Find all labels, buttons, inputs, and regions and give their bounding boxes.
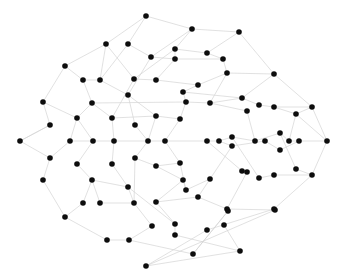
graph-edge: [128, 16, 146, 44]
graph-node: [143, 13, 149, 19]
graph-node: [97, 200, 103, 206]
graph-edge: [156, 166, 183, 180]
graph-node: [324, 138, 330, 144]
graph-node: [277, 130, 283, 136]
graph-edge: [186, 102, 210, 103]
graph-edge: [100, 80, 128, 95]
graph-edge: [43, 180, 65, 217]
graph-node: [204, 138, 210, 144]
graph-edge: [100, 44, 106, 80]
graph-node: [236, 29, 242, 35]
graph-edge: [274, 74, 312, 107]
graph-node: [89, 177, 95, 183]
graph-edge: [77, 141, 93, 164]
graph-node: [256, 102, 262, 108]
graph-node: [172, 46, 178, 52]
graph-node: [40, 177, 46, 183]
graph-edge: [50, 141, 70, 158]
graph-edge: [156, 116, 180, 119]
graph-node: [62, 63, 68, 69]
graph-node: [40, 99, 46, 105]
graph-edge: [65, 217, 107, 240]
graph-edge: [106, 44, 134, 79]
graph-node: [183, 187, 189, 193]
graph-edge: [146, 210, 275, 266]
graph-edge: [129, 226, 152, 240]
graph-edge: [43, 66, 65, 102]
graph-node: [125, 41, 131, 47]
graph-node: [67, 138, 73, 144]
graph-edge: [227, 209, 275, 210]
graph-edge: [274, 175, 312, 209]
graph-edge: [227, 73, 274, 74]
graph-node: [90, 138, 96, 144]
graph-node: [74, 115, 80, 121]
graph-node: [125, 92, 131, 98]
graph-node: [252, 138, 258, 144]
graph-node: [145, 138, 151, 144]
graph-edge: [134, 203, 152, 226]
graph-node: [131, 76, 137, 82]
graph-edge: [43, 102, 50, 125]
graph-node: [220, 56, 226, 62]
graph-node: [180, 177, 186, 183]
graph-edge: [210, 73, 227, 103]
graph-node: [216, 138, 222, 144]
graph-node: [309, 104, 315, 110]
graph-edge: [92, 180, 100, 203]
graph-edge: [175, 49, 207, 53]
graph-edge: [247, 111, 255, 141]
graph-node: [309, 172, 315, 178]
graph-node: [183, 99, 189, 105]
graph-node: [296, 138, 302, 144]
graph-edge: [156, 163, 180, 166]
graph-edge: [165, 119, 180, 141]
graph-node: [286, 138, 292, 144]
network-graph: [0, 0, 344, 278]
graph-edge: [65, 203, 83, 217]
graph-edge: [146, 16, 192, 29]
graph-node: [149, 223, 155, 229]
graph-node: [97, 77, 103, 83]
graph-node: [195, 194, 201, 200]
graph-edge: [296, 114, 327, 141]
graph-edge: [135, 125, 148, 141]
graph-node: [244, 108, 250, 114]
graph-node: [229, 134, 235, 140]
graph-edge: [156, 59, 175, 80]
graph-edge: [43, 102, 77, 118]
graph-edge: [135, 141, 148, 158]
graph-node: [47, 122, 53, 128]
graph-edge: [227, 172, 247, 209]
graph-edge: [156, 80, 198, 85]
graph-node: [17, 138, 23, 144]
graph-node: [180, 89, 186, 95]
graph-edge: [112, 118, 114, 141]
graph-edge: [312, 107, 327, 141]
graph-node: [80, 200, 86, 206]
graph-node: [271, 172, 277, 178]
graph-node: [256, 175, 262, 181]
graph-node: [262, 138, 268, 144]
graph-edge: [232, 137, 255, 141]
graph-edge: [83, 180, 92, 203]
graph-node: [80, 77, 86, 83]
graph-node: [172, 232, 178, 238]
graph-node: [109, 161, 115, 167]
graph-edge: [20, 125, 50, 141]
graph-edge: [239, 32, 274, 74]
graph-edge: [43, 158, 50, 180]
graph-edge: [151, 29, 192, 57]
graph-node: [271, 71, 277, 77]
graph-edge: [77, 118, 93, 141]
graph-edge: [77, 164, 92, 180]
graph-edge: [210, 98, 242, 103]
graph-edge: [183, 92, 242, 98]
graph-node: [239, 168, 245, 174]
graph-edge: [232, 141, 265, 146]
graph-node: [293, 166, 299, 172]
graph-node: [153, 199, 159, 205]
graph-node: [162, 138, 168, 144]
graph-node: [239, 95, 245, 101]
graph-edge: [289, 114, 296, 141]
